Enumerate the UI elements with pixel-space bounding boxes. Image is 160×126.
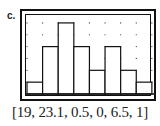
histogram-bar — [58, 23, 74, 94]
grid-dot — [136, 46, 137, 47]
histogram-bar — [74, 47, 90, 94]
grid-dot — [89, 22, 90, 23]
grid-dot — [26, 34, 27, 35]
plot-area — [25, 14, 151, 96]
calculator-screen — [20, 9, 156, 101]
window-settings: [19, 23.1, 0.5, 0, 6.5, 1] — [0, 104, 160, 121]
grid-dot — [26, 70, 27, 71]
grid-dot — [26, 22, 27, 23]
histogram-bar — [105, 47, 121, 94]
grid-dot — [26, 58, 27, 59]
grid-dot — [151, 70, 152, 71]
grid-dot — [136, 34, 137, 35]
grid-dot — [151, 46, 152, 47]
grid-dot — [42, 22, 43, 23]
grid-dot — [42, 34, 43, 35]
grid-dot — [151, 34, 152, 35]
histogram-bar — [136, 82, 152, 94]
grid-dot — [104, 22, 105, 23]
grid-dot — [26, 46, 27, 47]
histogram-bar — [43, 47, 59, 94]
histogram — [26, 15, 154, 99]
grid-dot — [151, 58, 152, 59]
grid-dot — [120, 22, 121, 23]
histogram-bar — [89, 70, 105, 94]
grid-dot — [136, 22, 137, 23]
grid-dot — [120, 34, 121, 35]
grid-dot — [151, 22, 152, 23]
grid-dot — [136, 58, 137, 59]
grid-dot — [104, 34, 105, 35]
histogram-bar — [27, 82, 43, 94]
grid-dot — [89, 34, 90, 35]
histogram-bar — [121, 70, 137, 94]
part-label: c. — [7, 10, 15, 21]
